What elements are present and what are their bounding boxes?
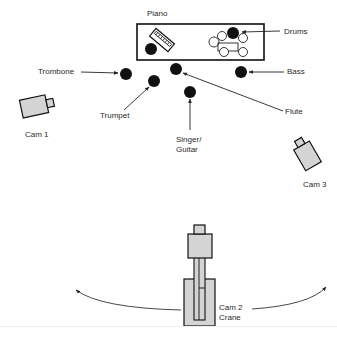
camera-1-icon — [19, 93, 55, 117]
singer-guitar-marker — [184, 86, 196, 98]
singer-label-line1: Singer/ — [176, 135, 201, 145]
piano-player-marker — [145, 43, 157, 55]
trumpet-leader-line — [124, 87, 149, 110]
cam2-label-line1: Cam 2 — [219, 303, 243, 313]
drummer-marker — [227, 27, 239, 39]
piano-label: Piano — [147, 9, 167, 19]
camera-3-icon — [290, 135, 321, 171]
studio-floor-plan: Piano Drums Bass Trombone Trumpet Flute … — [0, 0, 337, 338]
page-edge-divider — [0, 326, 337, 327]
drums-label: Drums — [284, 27, 308, 37]
cam2-label-line2: Crane — [219, 313, 241, 323]
flute-marker — [170, 63, 182, 75]
crane-swing-left-arrow — [76, 290, 181, 310]
camera-2-crane-icon — [184, 225, 215, 326]
trumpet-marker — [148, 75, 160, 87]
trombone-label: Trombone — [38, 67, 74, 77]
crane-swing-right-arrow — [252, 287, 326, 309]
diagram-canvas — [0, 0, 337, 338]
singer-label-line2: Guitar — [176, 145, 198, 155]
trombone-marker — [120, 68, 132, 80]
bass-label: Bass — [287, 67, 305, 77]
trumpet-label: Trumpet — [100, 111, 130, 121]
cam3-label: Cam 3 — [303, 180, 327, 190]
bass-marker — [235, 66, 247, 78]
flute-label: Flute — [285, 107, 303, 117]
cam1-label: Cam 1 — [25, 130, 49, 140]
trombone-leader-line — [81, 72, 118, 73]
flute-leader-line — [183, 73, 283, 111]
